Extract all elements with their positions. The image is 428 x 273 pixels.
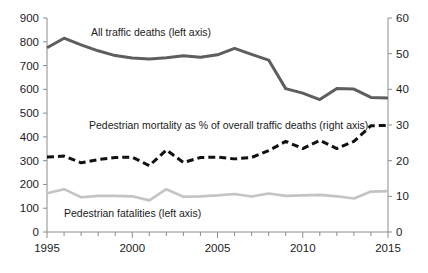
chart-container: 0100200300400500600700800900010203040506… [0,0,428,273]
right-axis-tick-label: 60 [396,12,409,24]
series-line-0 [47,38,388,99]
left-axis-tick-label: 200 [20,178,39,190]
left-axis-tick-label: 400 [20,131,39,143]
series-label-0: All traffic deaths (left axis) [91,26,211,38]
left-axis-tick-label: 500 [20,107,39,119]
left-axis-tick-label: 0 [33,226,39,238]
x-axis-tick-label: 1995 [34,242,60,254]
series-label-1: Pedestrian mortality as % of overall tra… [89,119,368,131]
series-line-1 [47,125,388,165]
right-axis-tick-label: 40 [396,83,409,95]
series-label-2: Pedestrian fatalities (left axis) [64,207,201,219]
left-axis-tick-label: 100 [20,202,39,214]
x-axis-tick-label: 2010 [290,242,316,254]
right-axis-tick-label: 50 [396,48,409,60]
left-axis-tick-label: 300 [20,155,39,167]
right-axis-tick-label: 0 [396,226,402,238]
right-axis-tick-label: 10 [396,190,409,202]
x-axis-tick-label: 2000 [119,242,145,254]
left-axis-tick-label: 700 [20,60,39,72]
left-axis-tick-label: 900 [20,12,39,24]
left-axis-tick-label: 600 [20,83,39,95]
x-axis-tick-label: 2015 [375,242,401,254]
right-axis-tick-label: 20 [396,155,409,167]
left-axis-tick-label: 800 [20,36,39,48]
series-line-2 [47,189,388,200]
chart-plot-area: 0100200300400500600700800900010203040506… [0,0,428,273]
right-axis-tick-label: 30 [396,119,409,131]
x-axis-tick-label: 2005 [205,242,231,254]
